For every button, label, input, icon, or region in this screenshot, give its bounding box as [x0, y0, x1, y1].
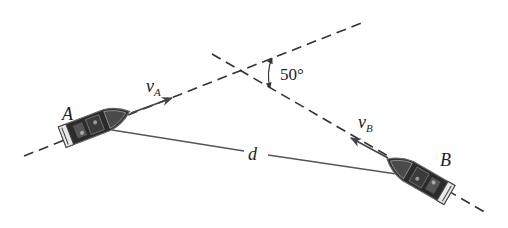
velocity-b-arrow	[351, 138, 388, 158]
distance-label: d	[248, 144, 258, 164]
boat-a-label: A	[61, 104, 74, 124]
distance-line-left	[112, 130, 244, 151]
angle-label: 50°	[280, 65, 304, 84]
velocity-a-arrow	[131, 98, 172, 113]
velocity-b-label: vB	[358, 112, 373, 134]
velocity-a-label: vA	[146, 76, 161, 98]
angle-arc	[268, 58, 272, 88]
boats-diagram: 50° d A vA B vB	[0, 0, 508, 228]
boat-b-label: B	[440, 150, 451, 170]
